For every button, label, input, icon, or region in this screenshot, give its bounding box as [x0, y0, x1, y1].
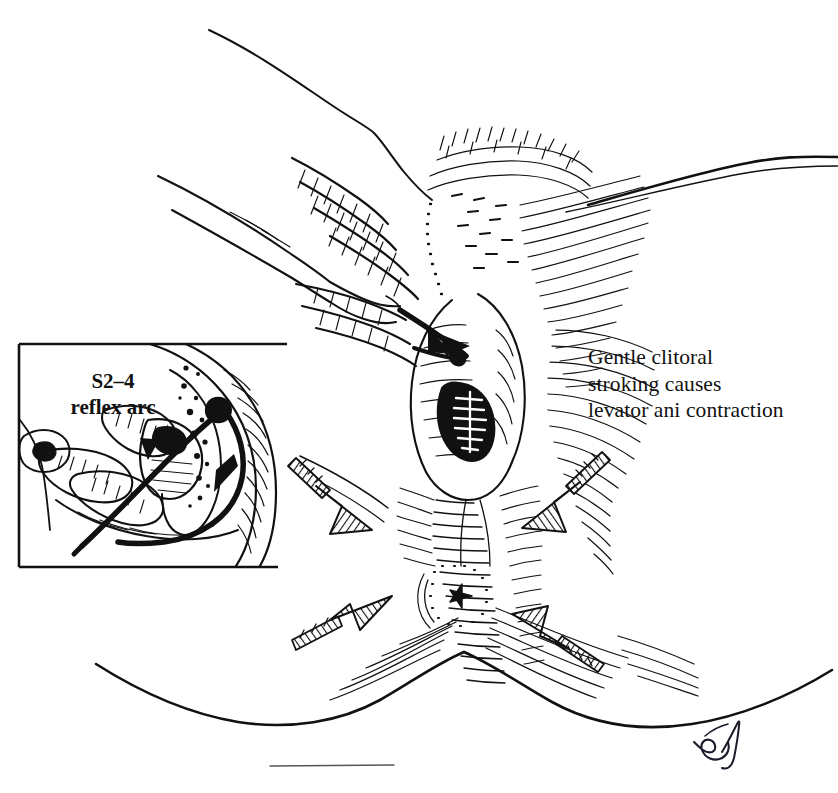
medical-illustration-figure: Gentle clitoral stroking causes levator …: [0, 0, 838, 793]
caption-text-block: Gentle clitoral stroking causes levator …: [588, 344, 838, 424]
caption-line-3: levator ani contraction: [588, 397, 838, 424]
inset-label-line-2: reflex arc: [38, 394, 188, 420]
caption-line-1: Gentle clitoral: [588, 344, 838, 371]
inset-label-block: S2–4 reflex arc: [38, 368, 188, 420]
caption-line-2: stroking causes: [588, 371, 838, 398]
inset-label-line-1: S2–4: [38, 368, 188, 394]
